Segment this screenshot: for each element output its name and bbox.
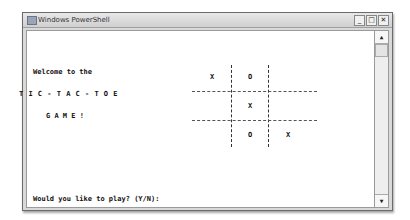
powershell-window: Windows PowerShell _ □ ✕ Welcome to the …	[22, 12, 393, 211]
vertical-scrollbar[interactable]: ▲ ▼	[374, 30, 389, 208]
welcome-text: Welcome to the	[33, 68, 92, 76]
board-divider	[192, 120, 317, 121]
play-prompt: Would you like to play? (Y/N):	[33, 195, 159, 203]
scroll-thumb[interactable]	[375, 44, 388, 57]
board-cell: O	[230, 73, 270, 81]
board-cell: O	[230, 131, 270, 139]
console-area[interactable]: Welcome to the T I C - T A C - T O E G A…	[26, 30, 375, 208]
tic-tac-toe-board: X O X O X	[192, 65, 317, 147]
board-cell: X	[192, 73, 232, 81]
minimize-button[interactable]: _	[354, 15, 365, 26]
scroll-down-button[interactable]: ▼	[375, 194, 388, 207]
scroll-up-button[interactable]: ▲	[375, 31, 388, 44]
close-button[interactable]: ✕	[378, 15, 389, 26]
game-text: G A M E !	[46, 112, 84, 120]
window-controls: _ □ ✕	[354, 15, 389, 26]
title-bar[interactable]: Windows PowerShell _ □ ✕	[23, 13, 392, 28]
maximize-button[interactable]: □	[366, 15, 377, 26]
powershell-icon	[27, 16, 37, 25]
board-cell: X	[230, 102, 270, 110]
game-title-text: T I C - T A C - T O E	[19, 90, 118, 98]
board-cell: X	[268, 131, 308, 139]
board-divider	[192, 91, 317, 92]
window-title: Windows PowerShell	[38, 14, 110, 26]
